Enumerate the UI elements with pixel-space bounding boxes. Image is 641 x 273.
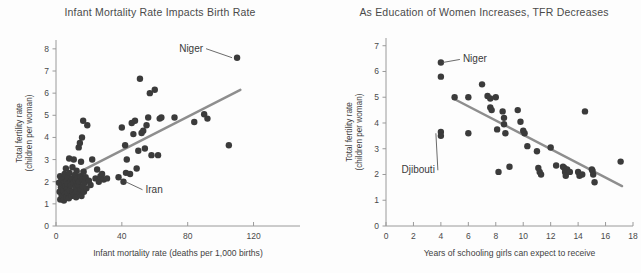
- x-axis-title: Years of schooling girls can expect to r…: [424, 248, 596, 258]
- y-tick-label: 4: [374, 118, 379, 128]
- y-axis-ticks: 012345678: [44, 44, 56, 231]
- y-tick-label: 7: [374, 41, 379, 51]
- y-tick-label: 0: [44, 221, 49, 231]
- scatter-plot-right: 01234567024681012141618NigerDjiboutiYear…: [320, 0, 641, 273]
- data-point: [119, 124, 125, 130]
- data-point: [438, 73, 444, 79]
- data-point: [122, 142, 128, 148]
- data-point: [137, 76, 143, 82]
- annotation-label: Djibouti: [402, 164, 435, 175]
- data-point: [145, 114, 151, 120]
- data-point: [488, 107, 494, 113]
- data-point: [130, 131, 136, 137]
- x-tick-label: 6: [466, 231, 471, 241]
- x-tick-label: 0: [54, 231, 59, 241]
- data-point: [204, 115, 210, 121]
- data-point: [465, 94, 471, 100]
- data-point: [438, 133, 444, 139]
- y-tick-label: 5: [374, 92, 379, 102]
- data-points: [56, 55, 241, 204]
- y-axis-title: Total fertility rate(children per woman): [345, 93, 364, 170]
- data-point: [87, 182, 93, 188]
- data-point: [71, 156, 77, 162]
- y-tick-label: 6: [44, 88, 49, 98]
- y-tick-label: 5: [44, 110, 49, 120]
- scatter-plot-left: 01234567804080120NigerIranInfant mortali…: [0, 0, 320, 273]
- x-tick-label: 2: [411, 231, 416, 241]
- x-tick-label: 18: [628, 231, 638, 241]
- annotations: NigerIran: [125, 43, 232, 195]
- data-point: [502, 130, 508, 136]
- data-points: [438, 59, 624, 185]
- data-point: [579, 171, 585, 177]
- y-axis-title-line1: Total fertility rate: [345, 102, 354, 162]
- data-point: [499, 108, 505, 114]
- y-tick-label: 7: [44, 66, 49, 76]
- x-axis-ticks: 024681012141618: [384, 222, 638, 241]
- data-point: [171, 114, 177, 120]
- chart-panel-right: As Education of Women Increases, TFR Dec…: [320, 0, 641, 273]
- y-tick-label: 8: [44, 44, 49, 54]
- trend-line: [63, 90, 241, 181]
- annotation-leader-line: [206, 49, 232, 58]
- data-point: [133, 165, 139, 171]
- data-point: [451, 94, 457, 100]
- data-point: [152, 87, 158, 93]
- x-tick-label: 0: [384, 231, 389, 241]
- data-point: [582, 108, 588, 114]
- annotation-leader-line: [125, 182, 142, 190]
- data-point: [142, 145, 148, 151]
- data-point: [135, 148, 141, 154]
- annotation-label: Niger: [179, 43, 204, 54]
- x-axis-ticks: 04080120: [54, 222, 261, 241]
- data-point: [104, 175, 110, 181]
- data-point: [524, 143, 530, 149]
- x-tick-label: 120: [246, 231, 260, 241]
- y-tick-label: 1: [44, 199, 49, 209]
- data-point: [191, 119, 197, 125]
- y-axis-ticks: 01234567: [374, 41, 386, 231]
- data-point: [99, 171, 105, 177]
- data-point: [77, 140, 83, 146]
- x-tick-label: 4: [439, 231, 444, 241]
- axes: [56, 40, 300, 226]
- data-point: [495, 169, 501, 175]
- data-point: [506, 164, 512, 170]
- data-point: [521, 130, 527, 136]
- data-point: [79, 134, 85, 140]
- data-point: [487, 95, 493, 101]
- x-tick-label: 14: [573, 231, 583, 241]
- y-tick-label: 3: [44, 155, 49, 165]
- data-point: [515, 107, 521, 113]
- y-tick-label: 2: [374, 169, 379, 179]
- axes: [386, 38, 633, 226]
- data-point: [89, 156, 95, 162]
- data-point: [538, 171, 544, 177]
- data-point: [501, 121, 507, 127]
- data-point: [567, 169, 573, 175]
- y-tick-label: 0: [374, 221, 379, 231]
- data-point: [127, 171, 133, 177]
- data-point: [115, 174, 121, 180]
- data-point: [534, 148, 540, 154]
- annotation-leader-line: [436, 133, 438, 170]
- y-tick-label: 2: [44, 177, 49, 187]
- chart-panel-left: Infant Mortality Rate Impacts Birth Rate…: [0, 0, 320, 273]
- data-point: [494, 126, 500, 132]
- data-point: [148, 152, 154, 158]
- data-point: [465, 130, 471, 136]
- data-point: [73, 167, 79, 173]
- x-tick-label: 8: [493, 231, 498, 241]
- x-tick-label: 12: [546, 231, 556, 241]
- y-tick-label: 6: [374, 66, 379, 76]
- data-point: [517, 118, 523, 124]
- y-tick-label: 1: [374, 195, 379, 205]
- x-tick-label: 40: [117, 231, 127, 241]
- x-axis-title: Infant mortality rate (deaths per 1,000 …: [93, 248, 263, 258]
- data-point: [158, 114, 164, 120]
- data-point: [94, 166, 100, 172]
- data-point: [78, 159, 84, 165]
- figure-root: Infant Mortality Rate Impacts Birth Rate…: [0, 0, 641, 273]
- x-tick-label: 80: [183, 231, 193, 241]
- annotation-label: Niger: [463, 53, 488, 64]
